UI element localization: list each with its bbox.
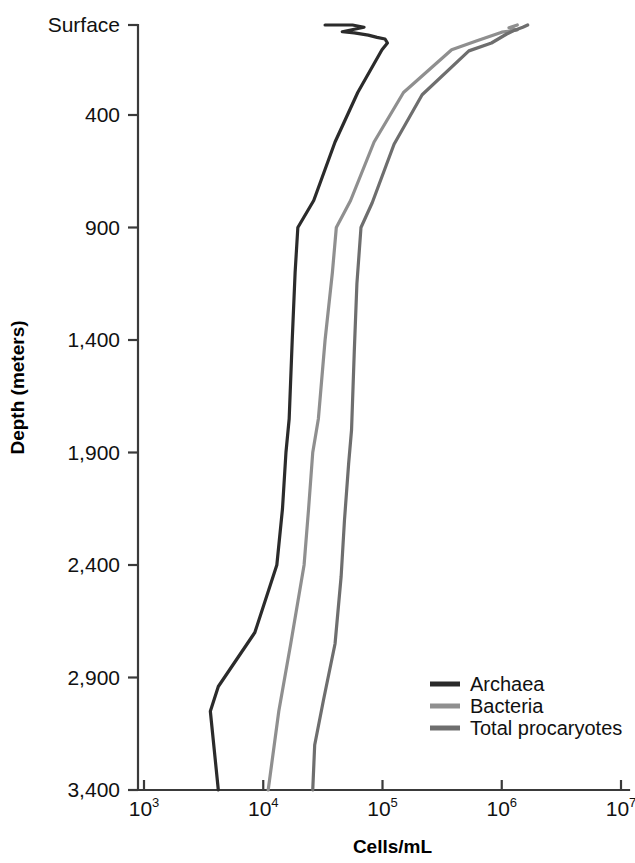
series-line-archaea <box>210 25 387 790</box>
tick-mantissa: 10 <box>248 797 271 820</box>
tick-exponent: 6 <box>510 795 517 810</box>
depth-profile-chart: Surface4009001,4001,9002,4002,9003,40010… <box>0 0 635 863</box>
y-axis-tick-label: 2,400 <box>67 553 120 576</box>
y-axis-tick-label: 2,900 <box>67 666 120 689</box>
tick-mantissa: 10 <box>129 797 152 820</box>
tick-exponent: 4 <box>271 795 278 810</box>
x-axis-tick-label: 104 <box>248 795 279 820</box>
y-axis-tick-label: 1,400 <box>67 328 120 351</box>
y-axis-tick-label: Surface <box>48 13 120 36</box>
chart-svg: Surface4009001,4001,9002,4002,9003,40010… <box>0 0 635 863</box>
x-axis-tick-label: 105 <box>367 795 398 820</box>
x-axis-title: Cells/mL <box>353 836 433 857</box>
y-axis-tick-label: 1,900 <box>67 441 120 464</box>
y-axis-tick-label: 900 <box>85 216 120 239</box>
tick-exponent: 7 <box>629 795 635 810</box>
y-axis-title: Depth (meters) <box>7 320 28 454</box>
x-axis-tick-label: 107 <box>606 795 635 820</box>
x-axis-tick-label: 103 <box>129 795 160 820</box>
axes-layer <box>128 25 629 790</box>
y-axis-tick-label: 400 <box>85 103 120 126</box>
tick-mantissa: 10 <box>367 797 390 820</box>
tick-exponent: 5 <box>391 795 398 810</box>
chart-legend: ArchaeaBacteriaTotal procaryotes <box>430 673 622 739</box>
tick-mantissa: 10 <box>606 797 629 820</box>
legend-label-archaea: Archaea <box>470 673 545 695</box>
legend-label-total-procaryotes: Total procaryotes <box>470 717 622 739</box>
x-axis-tick-label: 106 <box>486 795 517 820</box>
tick-mantissa: 10 <box>486 797 509 820</box>
legend-label-bacteria: Bacteria <box>470 695 544 717</box>
y-axis-tick-label: 3,400 <box>67 778 120 801</box>
tick-exponent: 3 <box>152 795 159 810</box>
